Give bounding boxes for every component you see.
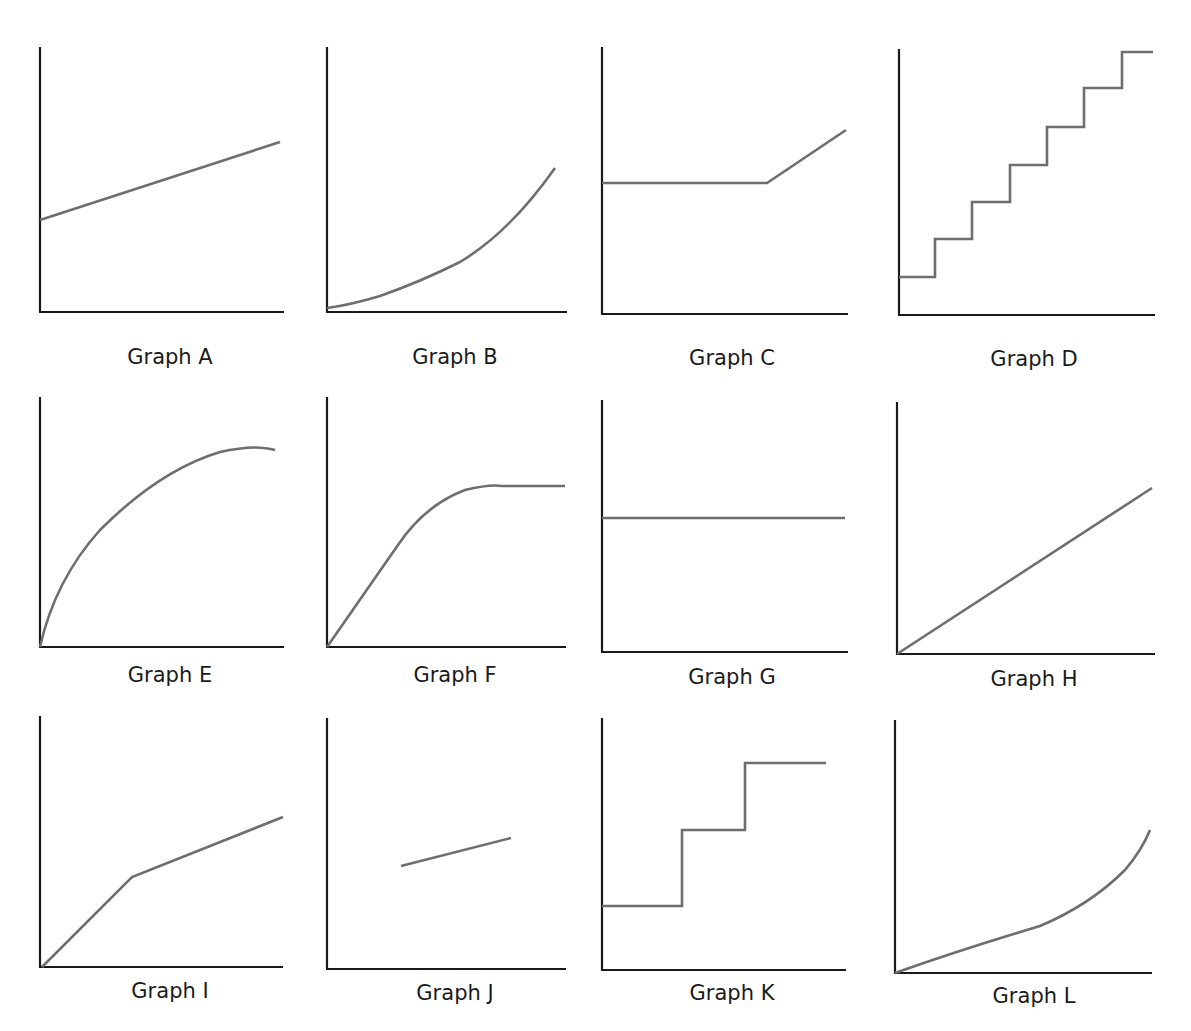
graph-caption: Graph E xyxy=(128,663,212,687)
graph-f xyxy=(326,397,566,647)
graph-d xyxy=(898,49,1155,315)
graph-curve xyxy=(40,447,275,647)
graph-curve xyxy=(602,763,826,906)
graph-curve xyxy=(327,168,555,308)
graph-caption: Graph H xyxy=(991,667,1078,691)
graph-caption: Graph C xyxy=(689,346,775,370)
graph-caption: Graph J xyxy=(416,981,493,1005)
graph-j xyxy=(326,718,566,969)
graph-caption: Graph L xyxy=(993,984,1076,1008)
graph-g xyxy=(601,400,848,652)
graph-caption: Graph I xyxy=(131,979,208,1003)
graph-curve xyxy=(897,488,1152,654)
graph-curve xyxy=(327,486,565,648)
graph-a xyxy=(39,47,284,312)
graph-curve xyxy=(42,817,283,967)
graph-e xyxy=(39,397,284,647)
graph-curve xyxy=(40,142,280,220)
graph-caption: Graph B xyxy=(412,345,498,369)
graph-i xyxy=(39,716,283,967)
graph-b xyxy=(326,47,567,312)
graph-caption: Graph F xyxy=(413,663,496,687)
graph-caption: Graph G xyxy=(688,665,775,689)
graph-k xyxy=(601,718,846,970)
graph-curve xyxy=(401,838,511,866)
graph-caption: Graph A xyxy=(127,345,212,369)
graph-caption: Graph K xyxy=(690,981,775,1005)
graph-c xyxy=(601,47,848,314)
graph-curve xyxy=(899,52,1153,277)
graph-caption: Graph D xyxy=(990,347,1077,371)
graph-h xyxy=(896,402,1155,654)
graphs-canvas xyxy=(0,0,1191,1031)
graph-curve xyxy=(895,830,1150,973)
graph-l xyxy=(894,720,1152,973)
graph-curve xyxy=(602,130,846,183)
